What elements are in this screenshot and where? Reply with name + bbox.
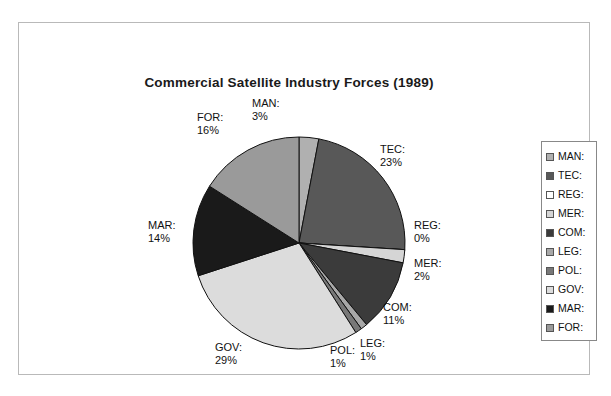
legend-item-label: POL: (558, 265, 582, 276)
slice-label-mer-value: 2% (414, 270, 442, 283)
slice-label-tec-value: 23% (380, 156, 405, 169)
legend-item-tec[interactable]: TEC: (546, 166, 596, 185)
slice-label-for-name: FOR: (197, 111, 223, 124)
legend-item-mer[interactable]: MER: (546, 204, 596, 223)
legend-item-label: REG: (558, 189, 584, 200)
legend-item-label: FOR: (558, 322, 583, 333)
slice-label-for: FOR: 16% (197, 111, 223, 137)
slice-label-man: MAN: 3% (252, 97, 280, 123)
legend-item-label: GOV: (558, 284, 584, 295)
chart-page: Commercial Satellite Industry Forces (19… (0, 0, 611, 396)
legend-item-pol[interactable]: POL: (546, 261, 596, 280)
slice-label-gov-value: 29% (215, 354, 242, 367)
legend-item-com[interactable]: COM: (546, 223, 596, 242)
slice-label-com-value: 11% (383, 314, 412, 327)
slice-label-for-value: 16% (197, 124, 223, 137)
slice-label-pol-name: POL: (330, 344, 355, 357)
slice-label-com-name: COM: (383, 301, 412, 314)
slice-label-man-name: MAN: (252, 97, 280, 110)
slice-label-mar: MAR: 14% (148, 219, 176, 245)
figure-frame: Commercial Satellite Industry Forces (19… (18, 22, 590, 375)
legend-swatch-icon (546, 210, 554, 218)
legend-item-label: LEG: (558, 246, 582, 257)
slice-label-reg-value: 0% (414, 232, 441, 245)
slice-label-mer: MER: 2% (414, 257, 442, 283)
slice-label-leg-value: 1% (360, 350, 385, 363)
legend-swatch-icon (546, 286, 554, 294)
chart-title: Commercial Satellite Industry Forces (19… (79, 75, 499, 90)
legend-swatch-icon (546, 267, 554, 275)
slice-label-mar-name: MAR: (148, 219, 176, 232)
legend-item-gov[interactable]: GOV: (546, 280, 596, 299)
legend-swatch-icon (546, 248, 554, 256)
legend-swatch-icon (546, 229, 554, 237)
legend-item-label: MAR: (558, 303, 584, 314)
legend-item-man[interactable]: MAN: (546, 147, 596, 166)
slice-label-reg-name: REG: (414, 219, 441, 232)
pie-chart (191, 135, 407, 351)
legend-swatch-icon (546, 305, 554, 313)
legend-item-reg[interactable]: REG: (546, 185, 596, 204)
slice-label-tec-name: TEC: (380, 143, 405, 156)
legend-swatch-icon (546, 153, 554, 161)
legend-item-label: TEC: (558, 170, 582, 181)
legend-item-mar[interactable]: MAR: (546, 299, 596, 318)
slice-label-pol: POL: 1% (330, 344, 355, 370)
slice-label-reg: REG: 0% (414, 219, 441, 245)
slice-label-pol-value: 1% (330, 357, 355, 370)
slice-label-tec: TEC: 23% (380, 143, 405, 169)
slice-label-gov-name: GOV: (215, 341, 242, 354)
slice-label-mar-value: 14% (148, 232, 176, 245)
legend-item-leg[interactable]: LEG: (546, 242, 596, 261)
pie-slice-group (193, 137, 405, 349)
pie-svg (191, 135, 407, 351)
legend-swatch-icon (546, 172, 554, 180)
chart-legend: MAN:TEC:REG:MER:COM:LEG:POL:GOV:MAR:FOR: (541, 141, 597, 341)
legend-item-label: MER: (558, 208, 584, 219)
slice-label-leg: LEG: 1% (360, 337, 385, 363)
slice-label-com: COM: 11% (383, 301, 412, 327)
legend-item-label: MAN: (558, 151, 584, 162)
legend-item-for[interactable]: FOR: (546, 318, 596, 337)
slice-label-leg-name: LEG: (360, 337, 385, 350)
slice-label-gov: GOV: 29% (215, 341, 242, 367)
slice-label-man-value: 3% (252, 110, 280, 123)
legend-swatch-icon (546, 324, 554, 332)
slice-label-mer-name: MER: (414, 257, 442, 270)
legend-swatch-icon (546, 191, 554, 199)
legend-item-label: COM: (558, 227, 585, 238)
